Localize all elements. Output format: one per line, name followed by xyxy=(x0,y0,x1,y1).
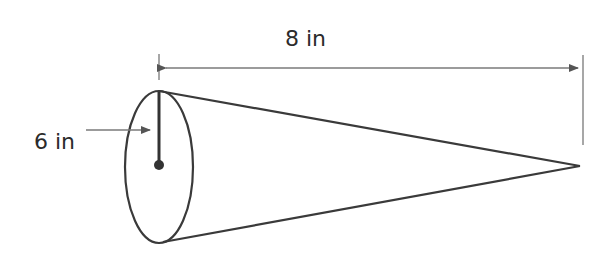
length-label: 8 in xyxy=(285,26,326,51)
cone-diagram: 8 in 6 in xyxy=(0,0,611,259)
radius-label: 6 in xyxy=(34,129,75,154)
cone-top-edge xyxy=(159,91,580,166)
center-dot xyxy=(154,160,164,170)
cone-bottom-edge xyxy=(163,166,580,242)
